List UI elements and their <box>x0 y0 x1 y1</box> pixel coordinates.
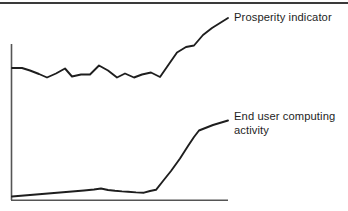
series-line-end-user-computing-activity <box>12 121 228 197</box>
series-line-prosperity-indicator <box>12 18 228 78</box>
chart-figure: Prosperity indicator End user computing … <box>0 0 348 211</box>
series-label-prosperity-indicator: Prosperity indicator <box>234 11 332 25</box>
series-label-end-user-computing-activity: End user computing activity <box>234 110 346 137</box>
chart-plot-area <box>0 0 348 211</box>
